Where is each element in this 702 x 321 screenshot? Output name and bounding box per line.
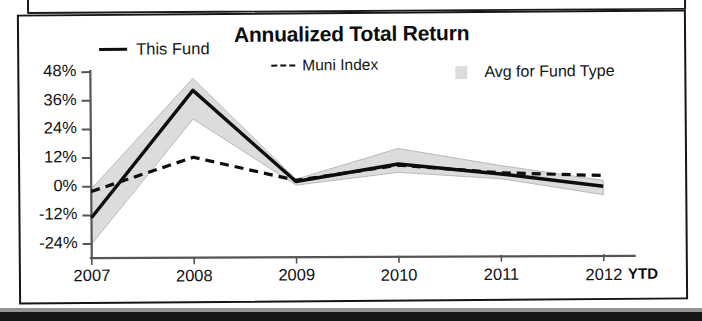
x-axis-tick-label: 2010: [364, 265, 434, 285]
y-axis-tick-label: 48%: [17, 61, 77, 80]
y-axis-tick-label: 36%: [17, 90, 77, 109]
plot-area: 48%36%24%12%0%-12%-24% 20072008200920102…: [19, 11, 682, 298]
chart-panel: Annualized Total Return This Fund Muni I…: [17, 9, 688, 304]
y-axis-tick-label: 0%: [17, 176, 77, 195]
y-axis-tick-label: 12%: [17, 147, 77, 166]
y-axis-tick-label: -24%: [18, 233, 78, 252]
x-axis-ytd-label: YTD: [628, 265, 658, 282]
y-axis-line: [90, 70, 91, 258]
screenshot-root: Annualized Total Return This Fund Muni I…: [0, 0, 702, 321]
x-axis-line: [90, 254, 636, 260]
plot-svg: [19, 11, 682, 298]
y-axis-tick-label: 24%: [17, 118, 77, 137]
x-axis-tick-label: 2008: [159, 266, 229, 286]
y-axis-tick-label: -12%: [17, 204, 77, 223]
avg-fund-type-band: [90, 75, 603, 244]
x-axis-tick-label: 2011: [466, 265, 536, 285]
scan-artifact-bottom-bar: [0, 312, 702, 321]
x-axis-tick-label: 2009: [262, 265, 332, 285]
x-axis-tick-label: 2007: [57, 266, 127, 286]
